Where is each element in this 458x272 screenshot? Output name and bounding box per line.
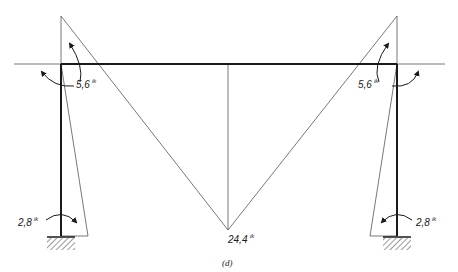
frame (61, 64, 397, 236)
left-joint-moment-value: 5,6 (76, 79, 90, 90)
moment-diagram (14, 16, 445, 236)
left-joint-arrow-lower-icon (42, 72, 74, 86)
right-base-moment-unit: ik (432, 216, 437, 222)
left-base-moment-value: 2,8 (17, 217, 32, 228)
right-column-moment-outline (370, 64, 445, 236)
beam-moment-outline (61, 16, 397, 230)
right-joint-arrow-lower-icon (392, 72, 418, 86)
right-fixed-support (383, 237, 411, 250)
midspan-moment-value: 24,4 (227, 234, 248, 245)
left-base-moment-unit: ik (34, 216, 39, 222)
left-fixed-support (47, 237, 75, 250)
left-joint-moment-unit: ik (92, 78, 97, 84)
moment-arrows (42, 44, 418, 222)
midspan-moment-unit: ik (250, 233, 255, 239)
figure-caption: (d) (222, 258, 233, 268)
right-joint-moment-value: 5,6 (358, 79, 372, 90)
right-base-moment-value: 2,8 (415, 217, 430, 228)
portal-frame-moment-diagram: 5,6 ik 5,6 ik 2,8 ik 2,8 ik 24,4 ik (d) (0, 0, 458, 272)
